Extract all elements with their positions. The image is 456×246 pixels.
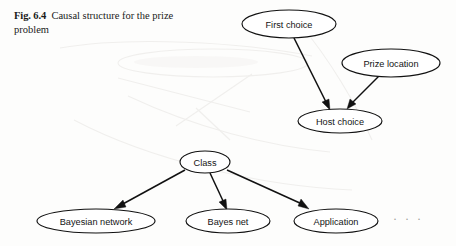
edge-first-choice-to-host-choice <box>294 38 330 110</box>
node-host-choice-label: Host choice <box>316 117 364 127</box>
node-first-choice[interactable]: First choice <box>242 10 336 38</box>
node-bayes-net-label: Bayes net <box>208 217 249 227</box>
node-host-choice[interactable]: Host choice <box>298 109 382 133</box>
edge-class-to-application <box>227 170 309 209</box>
node-bayesian-network[interactable]: Bayesian network <box>37 209 155 233</box>
graph-prize-problem: First choice Prize location Host choice <box>242 10 440 133</box>
causal-diagram: First choice Prize location Host choice <box>0 0 456 246</box>
node-bayes-net[interactable]: Bayes net <box>186 209 270 233</box>
node-application[interactable]: Application <box>294 209 378 233</box>
more-subtypes-ellipsis: · · · <box>393 212 424 227</box>
node-bayesian-network-label: Bayesian network <box>60 217 133 227</box>
edge-class-to-bayesian-network <box>114 170 185 209</box>
node-first-choice-label: First choice <box>266 20 313 30</box>
node-application-label: Application <box>314 217 359 227</box>
edge-prize-location-to-host-choice <box>347 76 379 109</box>
node-prize-location[interactable]: Prize location <box>342 49 440 77</box>
figure-page: Fig. 6.4 Causal structure for the prize … <box>0 0 456 246</box>
node-class[interactable]: Class <box>180 151 230 173</box>
graph-class-subtypes: Class Bayesian network Bayes net Applica… <box>37 151 378 233</box>
node-class-label: Class <box>194 158 217 168</box>
edge-class-to-bayes-net <box>210 173 227 210</box>
node-prize-location-label: Prize location <box>363 59 418 69</box>
